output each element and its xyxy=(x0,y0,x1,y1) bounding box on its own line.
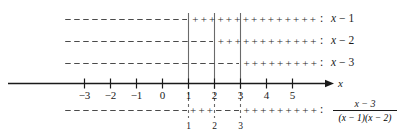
sign-plus: + xyxy=(277,35,283,47)
sign-plus: + xyxy=(234,13,240,25)
sign-chart-svg: ++++++++++++++++++++++++++++++++++++++++… xyxy=(0,0,411,135)
sign-plus: + xyxy=(302,57,308,69)
sign-plus: + xyxy=(252,57,258,69)
axis-tick-label: 4 xyxy=(264,89,270,101)
sign-plus: + xyxy=(301,13,307,25)
axis-tick-label: −2 xyxy=(105,89,117,101)
sign-plus: + xyxy=(269,104,275,116)
sign-plus: + xyxy=(294,57,300,69)
sign-plus: + xyxy=(277,104,283,116)
sign-plus: + xyxy=(268,35,274,47)
row-1-label-var: x xyxy=(330,12,337,24)
row-2-label: x− 2 xyxy=(330,34,354,46)
sign-plus: + xyxy=(192,13,198,25)
axis-name-label: x xyxy=(337,77,343,89)
row-labels-layer: : x− 1 : x− 2 : x− 3 xyxy=(320,12,354,68)
axis-tick-label: −1 xyxy=(131,89,143,101)
critical-point-labels-layer: 123 xyxy=(186,121,243,131)
row-x-minus-3: +++++++++ xyxy=(65,57,317,69)
sign-plus: + xyxy=(243,57,249,69)
sign-plus: + xyxy=(201,13,207,25)
sign-plus: + xyxy=(260,104,266,116)
sign-plus: + xyxy=(302,35,308,47)
quotient-numerator: x − 3 xyxy=(353,98,375,109)
axis-arrowhead xyxy=(325,80,334,87)
row-3-colon: : xyxy=(320,56,323,68)
sign-plus: + xyxy=(310,13,316,25)
sign-plus: + xyxy=(277,57,283,69)
sign-chart-figure: ++++++++++++++++++++++++++++++++++++++++… xyxy=(0,0,411,135)
sign-plus: + xyxy=(252,104,258,116)
axis-tick-label: 0 xyxy=(160,89,166,101)
number-line-axis xyxy=(8,79,334,89)
row-x-minus-1: +++++++++++++++ xyxy=(65,13,316,25)
sign-plus: + xyxy=(269,57,275,69)
row-3-label: x− 3 xyxy=(330,56,354,68)
sign-plus: + xyxy=(226,35,232,47)
axis-tick-labels-layer: −3−2−1012345 xyxy=(79,89,296,101)
row-3-label-var: x xyxy=(330,56,337,68)
axis-tick-label: 3 xyxy=(238,89,244,101)
sign-plus: + xyxy=(243,35,249,47)
sign-plus: + xyxy=(285,35,291,47)
sign-plus: + xyxy=(198,104,204,116)
row-x-minus-2: ++++++++++++ xyxy=(65,35,316,47)
axis-tick-label: −3 xyxy=(79,89,91,101)
row-2-label-rest: − 2 xyxy=(339,34,354,46)
sign-plus: + xyxy=(243,104,249,116)
sign-plus: + xyxy=(293,13,299,25)
quotient-row-label: : x − 3 (x − 1)(x − 2) xyxy=(320,98,397,124)
quotient-denominator: (x − 1)(x − 2) xyxy=(339,113,392,124)
sign-plus: + xyxy=(302,104,308,116)
axis-tick-label: 5 xyxy=(290,89,296,101)
row-1-label: x− 1 xyxy=(330,12,354,24)
quotient-colon: : xyxy=(320,103,323,115)
sign-plus: + xyxy=(311,57,317,69)
sign-plus: + xyxy=(207,104,213,116)
sign-plus: + xyxy=(209,13,215,25)
sign-plus: + xyxy=(251,35,257,47)
sign-plus: + xyxy=(310,35,316,47)
row-2-label-var: x xyxy=(330,34,337,46)
sign-plus: + xyxy=(276,13,282,25)
sign-plus: + xyxy=(260,57,266,69)
axis-tick-label: 2 xyxy=(212,89,218,101)
sign-plus: + xyxy=(294,104,300,116)
sign-plus: + xyxy=(251,13,257,25)
critical-point-label: 3 xyxy=(238,121,243,131)
row-1-colon: : xyxy=(320,12,323,24)
sign-plus: + xyxy=(268,13,274,25)
axis-tick-label: 1 xyxy=(186,89,192,101)
row-3-label-rest: − 3 xyxy=(339,56,354,68)
row-quotient: ++++++++++++ xyxy=(65,104,317,116)
sign-plus: + xyxy=(259,13,265,25)
sign-plus: + xyxy=(190,104,196,116)
sign-plus: + xyxy=(260,35,266,47)
sign-plus: + xyxy=(243,13,249,25)
sign-plus: + xyxy=(285,104,291,116)
critical-point-label: 2 xyxy=(212,121,217,131)
sign-plus: + xyxy=(285,57,291,69)
critical-point-label: 1 xyxy=(186,121,191,131)
sign-plus: + xyxy=(226,13,232,25)
sign-plus: + xyxy=(217,13,223,25)
row-2-colon: : xyxy=(320,34,323,46)
sign-plus: + xyxy=(235,35,241,47)
sign-plus: + xyxy=(311,104,317,116)
sign-plus: + xyxy=(218,35,224,47)
sign-plus: + xyxy=(293,35,299,47)
row-1-label-rest: − 1 xyxy=(339,12,354,24)
sign-plus: + xyxy=(285,13,291,25)
